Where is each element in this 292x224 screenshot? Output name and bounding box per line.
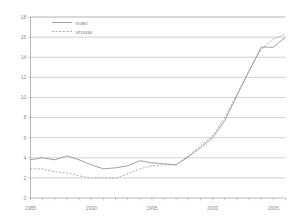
y-axis-tick-label: 12 [21,74,27,80]
x-axis-tick-label: 1990 [86,205,97,211]
chart-canvas: 024681012141618 19851990199520002005 man… [0,0,292,224]
y-axis-tick-label: 18 [21,14,27,20]
x-axis-tick-label: 2005 [268,205,279,211]
x-axis-tick-label: 1985 [25,205,36,211]
y-axis-tick-label: 16 [21,34,27,40]
x-axis-tick-label: 2000 [207,205,218,211]
y-axis-tick-label: 4 [23,155,26,161]
y-axis-tick-label: 2 [23,175,26,181]
legend-label-man: man [76,19,89,26]
y-axis-tick-label: 0 [23,195,26,201]
chart-background [0,0,292,224]
y-axis-tick-label: 6 [23,135,26,141]
line-chart: 024681012141618 19851990199520002005 man… [0,0,292,224]
legend-label-vrouw: vrouw [76,28,93,35]
y-axis-tick-label: 14 [21,54,27,60]
y-axis-tick-label: 10 [21,94,27,100]
y-axis-tick-label: 8 [23,114,26,120]
x-axis-tick-label: 1995 [146,205,157,211]
